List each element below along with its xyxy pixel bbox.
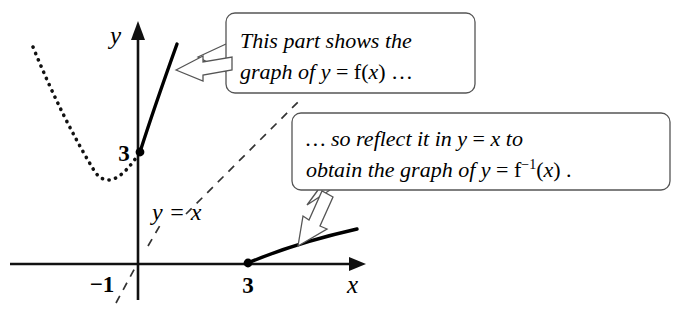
y-axis-label: y xyxy=(107,22,122,49)
line-y-equals-x xyxy=(116,98,302,303)
function-solid-branch xyxy=(140,44,177,152)
point-y-intercept-3 xyxy=(136,148,145,157)
callout-inverse-line-1: … so reflect it in y = x to xyxy=(306,126,523,151)
x-axis-label: x xyxy=(346,271,358,298)
x-axis-arrowhead xyxy=(349,257,366,271)
x-tick-label-3: 3 xyxy=(242,273,254,298)
x-tick-label-minus-1: −1 xyxy=(90,272,115,297)
y-axis-arrowhead xyxy=(131,21,145,40)
inverse-function-diagram: y x −1 3 3 y = x This part shows the gra… xyxy=(0,0,687,317)
y-equals-x-segment-upper xyxy=(186,98,302,214)
y-equals-x-segment-middle xyxy=(148,222,162,246)
y-equals-x-segment-lower xyxy=(116,266,136,303)
callout-function-line-1: This part shows the xyxy=(240,28,412,53)
point-x-intercept-3 xyxy=(244,259,253,268)
callout-function-line-2: graph of y = f(x) … xyxy=(240,59,413,84)
y-tick-label-3: 3 xyxy=(118,141,130,166)
line-y-equals-x-label: y = x xyxy=(150,199,202,225)
callout-function: This part shows the graph of y = f(x) … xyxy=(176,13,475,93)
callout-inverse: … so reflect it in y = x to obtain the g… xyxy=(292,113,670,246)
